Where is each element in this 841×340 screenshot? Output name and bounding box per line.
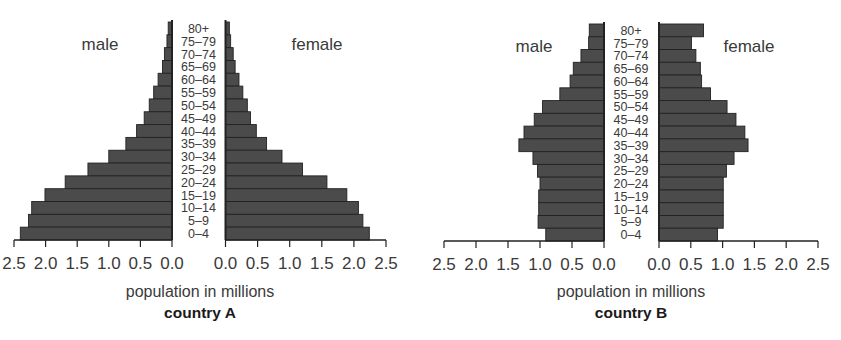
bar-male-15–19 — [539, 190, 604, 203]
male-tick-label: 0.0 — [160, 254, 184, 273]
bar-male-10–14 — [539, 203, 604, 216]
bar-female-35–39 — [659, 139, 748, 152]
bar-male-50–54 — [543, 101, 604, 114]
female-tick-label: 1.5 — [310, 254, 334, 273]
bar-male-5–9 — [29, 214, 172, 227]
female-tick-label: 1.0 — [711, 255, 735, 274]
male-tick-label: 1.5 — [496, 255, 520, 274]
bar-male-30–34 — [109, 150, 172, 163]
male-tick-label: 1.0 — [528, 255, 552, 274]
pyramid-country-a: 80+75–7970–7465–6960–6455–5950–5445–4940… — [2, 20, 398, 321]
bar-male-75–79 — [589, 37, 604, 50]
bar-female-65–69 — [226, 60, 236, 73]
bar-female-75–79 — [659, 37, 691, 50]
bar-male-55–59 — [154, 86, 172, 99]
male-series-label: male — [82, 35, 119, 54]
male-tick-label: 2.5 — [432, 255, 456, 274]
bar-male-70–74 — [581, 50, 604, 63]
bar-male-20–24 — [540, 177, 604, 190]
female-tick-label: 0.5 — [679, 255, 703, 274]
female-tick-label: 2.5 — [806, 255, 830, 274]
female-tick-label: 0.0 — [647, 255, 671, 274]
bar-male-25–29 — [88, 163, 172, 176]
bar-female-55–59 — [226, 86, 243, 99]
female-tick-label: 2.0 — [774, 255, 798, 274]
chart-title: country A — [164, 304, 236, 321]
female-series-label: female — [291, 35, 342, 54]
bar-female-20–24 — [659, 177, 723, 190]
bar-female-65–69 — [659, 62, 700, 75]
bar-female-0–4 — [659, 228, 718, 241]
female-tick-label: 1.5 — [743, 255, 767, 274]
male-tick-label: 0.5 — [560, 255, 584, 274]
female-tick-label: 2.0 — [342, 254, 366, 273]
bar-female-40–44 — [226, 125, 257, 138]
pyramid-country-b: 80+75–7970–7465–6960–6455–5950–5445–4940… — [432, 22, 830, 321]
age-group-label: 0–4 — [621, 228, 642, 242]
male-tick-label: 2.0 — [34, 254, 58, 273]
bar-male-80+ — [589, 24, 604, 37]
bar-female-60–64 — [659, 75, 702, 88]
bar-female-50–54 — [659, 101, 727, 114]
bar-male-40–44 — [137, 125, 172, 138]
bar-female-55–59 — [659, 88, 711, 101]
bar-male-15–19 — [45, 189, 172, 202]
bar-male-35–39 — [519, 139, 604, 152]
bar-female-10–14 — [659, 203, 723, 216]
male-tick-label: 0.0 — [592, 255, 616, 274]
female-tick-label: 2.5 — [374, 254, 398, 273]
bar-male-45–49 — [144, 112, 172, 125]
bar-female-70–74 — [226, 48, 234, 61]
age-group-label: 0–4 — [188, 227, 209, 241]
bar-male-70–74 — [164, 48, 172, 61]
bar-female-10–14 — [226, 202, 359, 215]
bar-male-0–4 — [546, 228, 604, 241]
bar-male-30–34 — [533, 152, 604, 165]
bar-female-30–34 — [659, 152, 734, 165]
bar-female-45–49 — [226, 112, 251, 125]
bar-male-35–39 — [126, 137, 172, 150]
male-tick-label: 0.5 — [129, 254, 153, 273]
bar-male-0–4 — [20, 227, 172, 240]
male-tick-label: 1.5 — [65, 254, 89, 273]
bar-male-65–69 — [163, 60, 172, 73]
bar-female-50–54 — [226, 99, 248, 112]
bar-female-5–9 — [659, 215, 723, 228]
population-pyramids: 80+75–7970–7465–6960–6455–5950–5445–4940… — [0, 0, 841, 340]
bar-male-60–64 — [570, 75, 604, 88]
bar-male-65–69 — [573, 62, 604, 75]
bar-female-45–49 — [659, 113, 736, 126]
bar-female-5–9 — [226, 214, 363, 227]
bar-female-30–34 — [226, 150, 282, 163]
bar-male-55–59 — [560, 88, 604, 101]
bar-female-15–19 — [226, 189, 347, 202]
bar-male-60–64 — [158, 73, 172, 86]
bar-female-20–24 — [226, 176, 327, 189]
bar-female-60–64 — [226, 73, 239, 86]
female-series-label: female — [723, 37, 774, 56]
bar-female-70–74 — [659, 50, 696, 63]
female-tick-label: 0.5 — [246, 254, 270, 273]
female-tick-label: 0.0 — [214, 254, 238, 273]
bar-female-15–19 — [659, 190, 723, 203]
x-axis-title: population in millions — [126, 283, 275, 300]
bar-female-0–4 — [226, 227, 370, 240]
bar-male-5–9 — [538, 215, 604, 228]
bar-female-40–44 — [659, 126, 745, 139]
bar-male-20–24 — [65, 176, 172, 189]
male-tick-label: 1.0 — [97, 254, 121, 273]
bar-male-10–14 — [32, 202, 172, 215]
male-tick-label: 2.0 — [464, 255, 488, 274]
male-series-label: male — [516, 37, 553, 56]
bar-female-25–29 — [659, 164, 726, 177]
bar-male-40–44 — [524, 126, 604, 139]
male-tick-label: 2.5 — [2, 254, 26, 273]
bar-female-35–39 — [226, 137, 267, 150]
bar-female-80+ — [659, 24, 704, 37]
bar-male-45–49 — [534, 113, 604, 126]
chart-title: country B — [595, 304, 667, 321]
female-tick-label: 1.0 — [278, 254, 302, 273]
bar-female-25–29 — [226, 163, 303, 176]
bar-male-50–54 — [149, 99, 172, 112]
x-axis-title: population in millions — [557, 283, 706, 300]
